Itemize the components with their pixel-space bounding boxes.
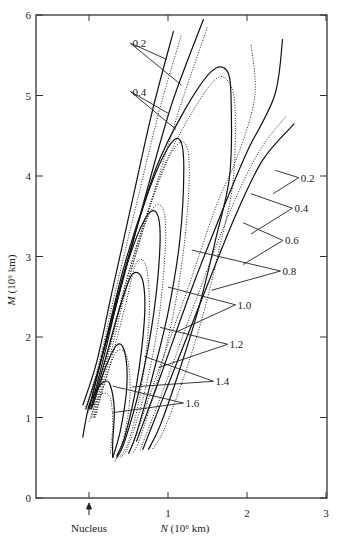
annotation-label: 1.2	[230, 338, 244, 350]
y-axis-label: M (10⁶ km)	[5, 254, 18, 306]
annotation-label: 0.6	[285, 234, 299, 246]
annotation-leader-line	[160, 327, 228, 344]
x-tick-label: 3	[323, 507, 329, 519]
ticks-layer: 1230123456	[26, 9, 330, 519]
annotation-label: 1.4	[215, 375, 229, 387]
y-tick-label: 0	[26, 492, 32, 504]
y-tick-label: 3	[26, 251, 32, 263]
chart: 0.20.40.20.40.60.81.01.21.41.6 123012345…	[0, 0, 341, 544]
annotation-leader-line	[211, 271, 280, 290]
annotation-label: 0.4	[132, 86, 146, 98]
axis-units: (10⁶ km)	[168, 522, 210, 535]
annotation-label: 1.0	[238, 299, 252, 311]
nucleus-label: Nucleus	[71, 522, 107, 534]
annotation-leader-line	[273, 178, 299, 194]
y-tick-label: 2	[26, 331, 32, 343]
solid-curve-loop-2	[89, 138, 184, 453]
curves-layer	[83, 19, 295, 462]
y-tick-label: 4	[26, 170, 32, 182]
annotations-layer: 0.20.40.20.40.60.81.01.21.41.6	[113, 37, 315, 412]
annotation-label: 0.2	[132, 37, 146, 49]
annotation-label: 0.2	[301, 172, 315, 184]
dotted-curve-syndyne-b-dot	[87, 27, 207, 413]
annotation-leader-line	[168, 287, 236, 305]
solid-curve-loop-1	[89, 67, 232, 450]
annotation-leader-line	[251, 208, 292, 234]
dotted-curve-loop-2-dot	[93, 142, 189, 454]
annotation-leader-line	[192, 250, 281, 271]
annotation-label: 0.8	[283, 265, 297, 277]
annotation-leader-line	[243, 223, 283, 241]
annotation-leader-line	[275, 170, 298, 177]
axes-layer	[36, 15, 327, 498]
nucleus-arrow-icon	[87, 503, 92, 515]
x-axis-label: N (10⁶ km)	[159, 522, 209, 535]
x-tick-label: 2	[244, 507, 250, 519]
annotation-label: 1.6	[185, 397, 199, 409]
solid-curve-tail-r2	[143, 124, 295, 450]
annotation-leader-line	[130, 43, 181, 85]
annotation-leader-line	[243, 240, 283, 264]
solid-curve-loop-5	[93, 344, 127, 458]
annotation-leader-line	[251, 194, 292, 209]
annotation-leader-line	[132, 381, 213, 387]
y-tick-label: 1	[26, 412, 32, 424]
axis-units: (10⁶ km)	[5, 254, 18, 296]
y-tick-label: 6	[26, 9, 32, 21]
y-tick-label: 5	[26, 90, 32, 102]
plot-frame	[36, 15, 327, 498]
annotation-label: 0.4	[294, 202, 308, 214]
x-tick-label: 1	[165, 507, 171, 519]
